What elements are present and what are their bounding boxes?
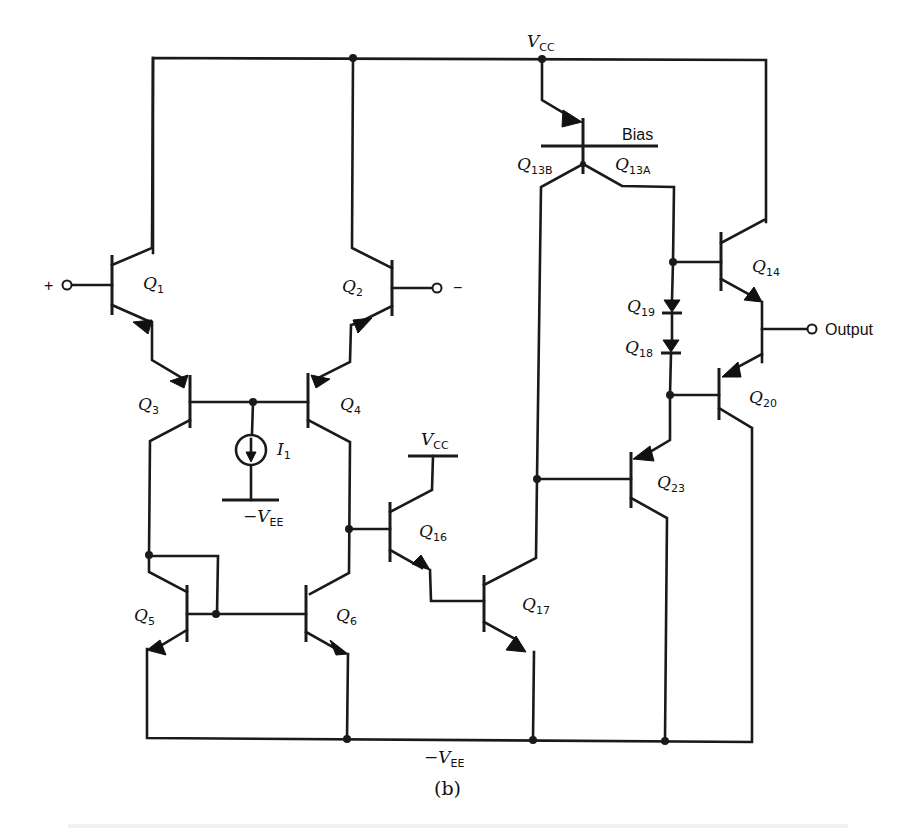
transistor-q2 bbox=[318, 58, 442, 378]
q17-label: Q17 bbox=[522, 594, 550, 617]
q13b-label: Q13B bbox=[517, 154, 552, 177]
current-source-i1 bbox=[222, 402, 279, 500]
output-label: Output bbox=[825, 321, 874, 338]
inverting-input-terminal[interactable] bbox=[433, 284, 442, 293]
noninverting-input-label: + bbox=[44, 277, 53, 294]
transistor-q1 bbox=[63, 58, 183, 378]
op-amp-schematic: VCC Bias Q13B Q13A + − Output Q1 Q2 Q3 Q… bbox=[0, 0, 917, 828]
transistor-q13 bbox=[537, 59, 674, 479]
q20-label: Q20 bbox=[749, 387, 777, 410]
output-node bbox=[762, 325, 817, 334]
q3-q4-base-bus bbox=[190, 398, 308, 406]
q16-label: Q16 bbox=[419, 521, 447, 544]
transistor-q6 bbox=[187, 585, 348, 739]
transistor-q5 bbox=[145, 551, 220, 655]
diode-q18 bbox=[661, 340, 681, 395]
transistor-q20 bbox=[666, 354, 762, 428]
q5-label: Q5 bbox=[134, 605, 155, 628]
output-terminal[interactable] bbox=[808, 325, 817, 334]
bias-label: Bias bbox=[622, 126, 653, 143]
q18-label: Q18 bbox=[625, 337, 653, 360]
q4-label: Q4 bbox=[340, 394, 361, 417]
vee-source-label: −VEE bbox=[243, 506, 283, 529]
q1-label: Q1 bbox=[143, 273, 164, 296]
caption-cutoff bbox=[68, 824, 848, 828]
transistor-q14 bbox=[669, 220, 764, 362]
noninverting-input-terminal[interactable] bbox=[63, 281, 72, 290]
transistor-q23 bbox=[533, 395, 670, 741]
transistor-q16 bbox=[345, 456, 484, 601]
q13a-label: Q13A bbox=[615, 154, 651, 177]
diode-q19 bbox=[662, 262, 682, 340]
q2-label: Q2 bbox=[342, 276, 363, 299]
vee-bottom-label: −VEE bbox=[424, 747, 464, 770]
transistor-q3 bbox=[149, 375, 190, 556]
i1-label: I1 bbox=[276, 439, 291, 462]
q14-label: Q14 bbox=[752, 256, 780, 279]
vcc-q16-label: VCC bbox=[421, 429, 449, 452]
q19-label: Q19 bbox=[627, 296, 655, 319]
q6-label: Q6 bbox=[336, 605, 357, 628]
inverting-input-label: − bbox=[453, 279, 462, 296]
q23-label: Q23 bbox=[657, 472, 685, 495]
labels: VCC Bias Q13B Q13A + − Output Q1 Q2 Q3 Q… bbox=[44, 31, 874, 799]
subfigure-label: (b) bbox=[434, 777, 461, 799]
q3-label: Q3 bbox=[138, 394, 159, 417]
vcc-top-label: VCC bbox=[527, 31, 555, 54]
